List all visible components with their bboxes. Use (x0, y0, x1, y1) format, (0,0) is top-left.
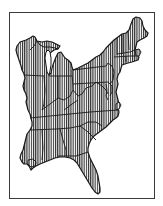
outer-banks (116, 102, 121, 110)
gulf-islands (28, 159, 36, 167)
cape-cod (135, 49, 141, 56)
eastern-us-map (0, 0, 163, 206)
